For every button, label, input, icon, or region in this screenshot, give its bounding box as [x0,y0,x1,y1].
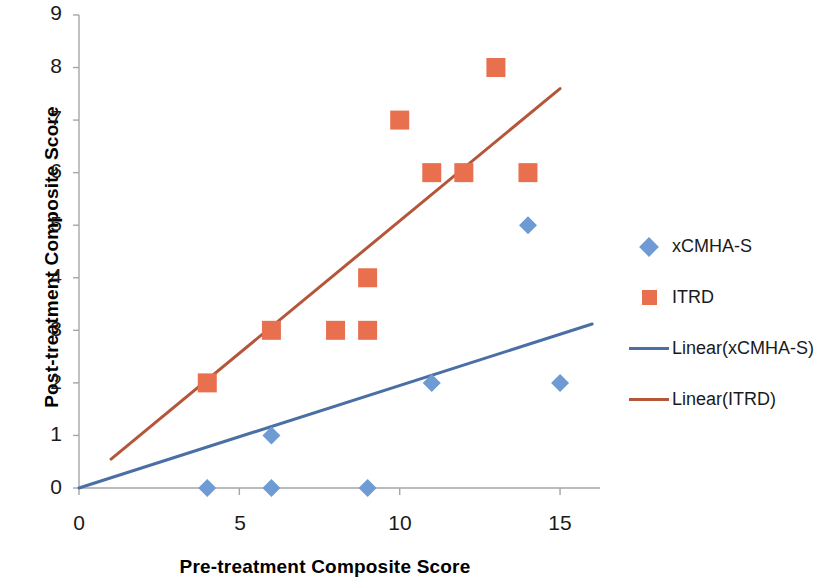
legend-label-xcmha-s: xCMHA-S [672,236,752,257]
trendline-0 [79,324,592,488]
square-marker-icon [626,286,672,310]
data-point-xcmha-s [519,216,537,234]
line-swatch-icon [626,388,672,412]
chart-legend: xCMHA-S ITRD Linear(xCMHA-S) Linear(ITRD… [626,221,839,425]
data-point-xcmha-s [359,479,377,497]
legend-item-xcmha-s: xCMHA-S [626,221,839,272]
legend-label-itrd: ITRD [672,287,714,308]
data-point-itrd [358,268,377,287]
data-point-itrd [518,163,537,182]
data-point-itrd [486,58,505,77]
data-point-xcmha-s [262,479,280,497]
data-point-itrd [326,321,345,340]
data-point-xcmha-s [551,374,569,392]
data-point-itrd [358,321,377,340]
data-point-itrd [390,111,409,130]
data-point-xcmha-s [198,479,216,497]
legend-item-linear-itrd: Linear(ITRD) [626,374,839,425]
scatter-chart: Post-treatment Composite Score Pre-treat… [0,0,839,588]
data-point-itrd [422,163,441,182]
legend-label-linear-xcmha-s: Linear(xCMHA-S) [672,338,814,359]
data-point-itrd [262,321,281,340]
data-point-itrd [198,373,217,392]
line-swatch-icon [626,337,672,361]
axes [73,15,600,495]
trendlines [79,89,592,488]
diamond-marker-icon [626,235,672,259]
data-point-itrd [454,163,473,182]
legend-label-linear-itrd: Linear(ITRD) [672,389,776,410]
legend-item-linear-xcmha-s: Linear(xCMHA-S) [626,323,839,374]
legend-item-itrd: ITRD [626,272,839,323]
trendline-1 [111,89,560,460]
